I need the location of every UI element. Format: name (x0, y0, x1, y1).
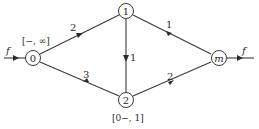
edge-1-to-2 (123, 19, 129, 92)
edge-2-to-0 (40, 62, 119, 96)
node-m: m (212, 51, 227, 66)
node-2: 2 (119, 93, 134, 108)
node-m-label: m (214, 53, 223, 64)
node-2-annotation: [0−, 1] (112, 113, 144, 123)
node-0: 0 (26, 51, 41, 66)
edge-1-to-m-capacity: 1 (166, 19, 172, 30)
sink-flow-label: f (241, 45, 248, 56)
node-0-annotation: [−, ∞] (22, 36, 50, 46)
flow-network-diagram: f f 2 1 3 1 2 0 [−, ∞] 1 (0, 0, 259, 129)
edge-0-to-1-capacity: 2 (70, 22, 76, 33)
edge-0-to-1 (40, 15, 119, 54)
edge-2-to-m-capacity: 2 (167, 71, 173, 82)
node-1-label: 1 (123, 6, 129, 17)
node-0-label: 0 (30, 53, 36, 64)
sink-flow-arrow (227, 55, 254, 61)
source-flow-label: f (5, 45, 12, 56)
node-2-label: 2 (123, 95, 129, 106)
node-1: 1 (119, 4, 134, 19)
edge-1-to-2-capacity: 1 (130, 52, 136, 63)
edge-2-to-0-capacity: 3 (83, 69, 89, 80)
